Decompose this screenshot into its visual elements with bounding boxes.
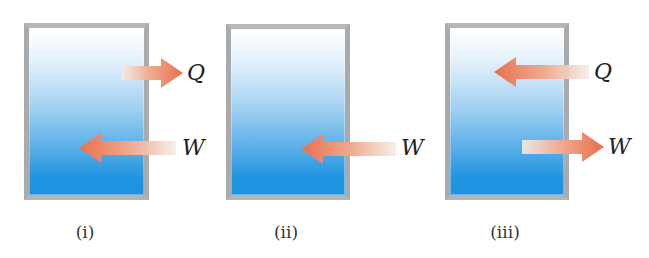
- work-in-arrow-icon: [301, 133, 396, 165]
- system-box-iii: [445, 23, 569, 200]
- work-in-arrow-icon: [79, 132, 176, 164]
- heat-out-arrow-icon: [121, 57, 183, 89]
- system-box-i: [24, 23, 149, 200]
- caption-iii: (iii): [490, 224, 520, 241]
- caption-ii: (ii): [274, 224, 298, 241]
- work-label-iii: W: [608, 136, 631, 158]
- heat-label-iii: Q: [594, 61, 612, 83]
- work-label-ii: W: [401, 137, 424, 159]
- heat-in-arrow-icon: [494, 56, 589, 88]
- work-out-arrow-icon: [522, 131, 604, 163]
- heat-label-i: Q: [187, 62, 205, 84]
- system-box-ii: [226, 24, 350, 200]
- work-label-i: W: [182, 137, 205, 159]
- caption-i: (i): [76, 224, 95, 241]
